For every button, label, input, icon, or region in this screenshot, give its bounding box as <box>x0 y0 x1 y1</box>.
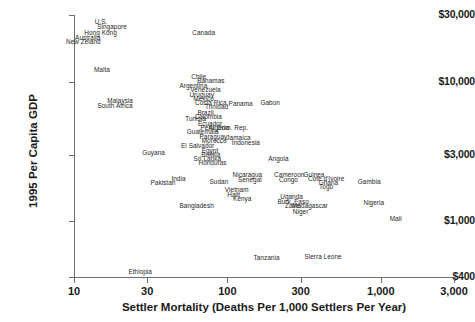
y-tick-label: $30,000 <box>411 8 475 20</box>
x-tick-mark <box>301 277 302 283</box>
y-tick-mark <box>69 15 75 16</box>
x-axis-line <box>74 277 454 278</box>
x-axis-title: Settler Mortality (Deaths Per 1,000 Sett… <box>74 301 454 313</box>
y-tick-label: $10,000 <box>411 75 475 87</box>
data-point-label: Ethiopia <box>128 268 152 275</box>
x-tick-label: 100 <box>218 285 236 297</box>
y-axis-title: 1995 Per Capita GDP <box>27 41 39 261</box>
scatter-plot-chart: $30,000$10,000$3,000$1,000$400 103010030… <box>0 0 475 322</box>
data-point-label: Nigeria <box>363 198 384 205</box>
data-point-label: South Africa <box>97 101 132 108</box>
data-point-label: Canada <box>192 29 215 36</box>
y-tick-label: $3,000 <box>411 148 475 160</box>
data-point-label: Mali <box>390 214 402 221</box>
data-point-label: Honduras <box>198 159 226 166</box>
x-tick-label: 300 <box>291 285 309 297</box>
data-point-label: Gambia <box>358 177 381 184</box>
x-tick-mark <box>147 277 148 283</box>
data-point-label: Panama <box>229 100 253 107</box>
x-tick-mark <box>74 277 75 283</box>
data-point-label: Indonesia <box>232 139 260 146</box>
y-axis-line <box>74 15 75 278</box>
y-tick-label: $400 <box>411 270 475 282</box>
data-point-label: Kenya <box>233 195 251 202</box>
y-tick-label: $1,000 <box>411 214 475 226</box>
data-point-label: Guyana <box>142 148 165 155</box>
x-tick-label: 1,000 <box>367 285 395 297</box>
x-tick-label: 30 <box>141 285 153 297</box>
data-point-label: Togo <box>319 182 333 189</box>
data-point-label: Sudan <box>210 177 229 184</box>
data-point-label: Malta <box>94 65 110 72</box>
data-point-label: Bangladesh <box>179 201 213 208</box>
x-tick-mark <box>227 277 228 283</box>
x-tick-label: 3,000 <box>440 285 468 297</box>
data-point-label: Senegal <box>238 176 262 183</box>
data-point-label: Gabon <box>260 99 279 106</box>
data-point-label: New Zeland <box>66 38 101 45</box>
x-tick-mark <box>454 277 455 283</box>
data-point-label: Angola <box>268 154 288 161</box>
data-point-label: Tanzania <box>254 253 280 260</box>
y-tick-mark <box>69 221 75 222</box>
data-point-label: Sierra Leone <box>304 252 341 259</box>
data-point-label: Dom. Rep. <box>217 124 248 131</box>
data-point-label: Congo <box>279 176 298 183</box>
y-tick-mark <box>69 155 75 156</box>
x-tick-label: 10 <box>68 285 80 297</box>
y-tick-mark <box>69 82 75 83</box>
x-tick-mark <box>381 277 382 283</box>
data-point-label: Pakistan <box>150 179 175 186</box>
data-point-label: Niger <box>293 208 309 215</box>
